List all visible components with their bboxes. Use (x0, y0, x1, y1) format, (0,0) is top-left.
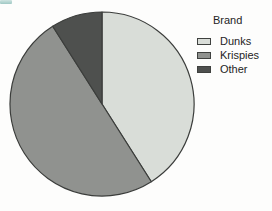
legend-item-label: Krispies (220, 48, 259, 62)
legend-swatch-icon (197, 52, 211, 59)
legend-item-label: Dunks (220, 34, 251, 48)
chart-legend: Brand Dunks Krispies Other (196, 14, 259, 76)
pie-chart-figure: Brand Dunks Krispies Other (0, 0, 272, 211)
legend-item-krispies: Krispies (196, 48, 259, 62)
legend-swatch-icon (197, 66, 211, 73)
legend-rows: Dunks Krispies Other (196, 34, 259, 76)
legend-swatch-icon (197, 38, 211, 45)
legend-title: Brand (213, 14, 259, 27)
legend-item-other: Other (196, 62, 259, 76)
legend-item-dunks: Dunks (196, 34, 259, 48)
legend-item-label: Other (220, 62, 248, 76)
